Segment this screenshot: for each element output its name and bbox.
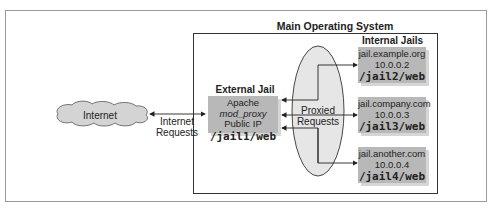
internal-jail-box: jail.example.org 10.0.0.2 /jail2/web — [358, 47, 426, 83]
external-jail-box: Apache mod_proxy Public IP /jail1/web — [208, 96, 278, 133]
main-os-title: Main Operating System — [275, 21, 395, 32]
internet-label: Internet — [80, 110, 120, 121]
internal-jail-box: jail.another.com 10.0.0.4 /jail4/web — [358, 147, 426, 183]
internal-jails-title: Internal Jails — [360, 35, 425, 46]
internal-jail-box: jail.company.com 10.0.0.3 /jail3/web — [358, 97, 426, 133]
external-jail-title: External Jail — [210, 84, 280, 95]
internet-requests-label: Internet Requests — [152, 116, 202, 138]
proxied-requests-label: Proxied Requests — [296, 105, 340, 127]
